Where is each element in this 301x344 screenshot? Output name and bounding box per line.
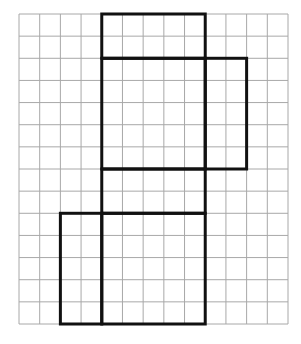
back-face xyxy=(102,213,205,324)
grid-diagram xyxy=(0,0,301,344)
front-face xyxy=(102,58,205,169)
